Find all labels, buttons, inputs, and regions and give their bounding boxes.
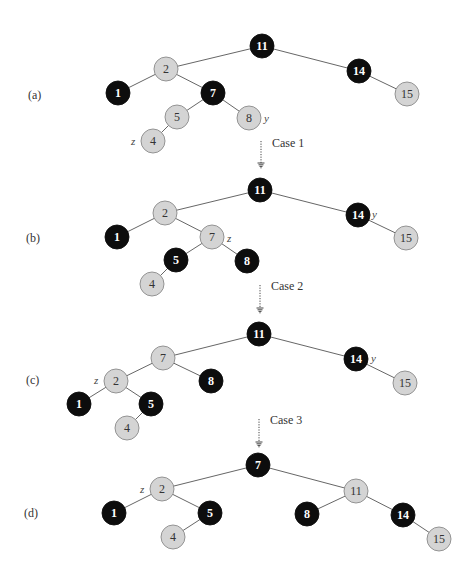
red-black-tree-diagram: 1121417155841121417155841171428151547211… <box>0 0 476 579</box>
transition-arrow: Case 1 <box>258 136 305 168</box>
node-key: 1 <box>114 230 120 244</box>
node-key: 7 <box>209 230 215 244</box>
pointer-label-z: z <box>139 483 145 495</box>
tree-edge <box>165 190 260 213</box>
node-key: 2 <box>162 206 168 220</box>
transition-arrow: Case 2 <box>257 279 304 313</box>
red-node-4: 4 <box>140 272 164 296</box>
node-key: 11 <box>350 484 362 498</box>
arrow-head-icon <box>256 442 263 447</box>
transition-arrow: Case 3 <box>256 413 303 447</box>
tree-edge <box>262 46 359 71</box>
node-key: 1 <box>76 397 82 411</box>
red-node-15: 15 <box>427 527 451 551</box>
nodes-layer: 1121417155841121417155841171428151547211… <box>67 34 451 551</box>
node-key: 5 <box>148 397 154 411</box>
black-node-14: 14 <box>346 203 370 227</box>
labels-layer: (a)yz(b)yz(c)yz(d)z <box>24 88 377 520</box>
arrow-head-icon <box>258 163 265 168</box>
black-node-14: 14 <box>347 59 371 83</box>
black-node-14: 14 <box>344 347 368 371</box>
pointer-label-z: z <box>226 232 232 244</box>
panel-label: (b) <box>26 231 40 245</box>
red-node-4: 4 <box>161 525 185 549</box>
node-key: 4 <box>124 421 130 435</box>
red-node-7: 7 <box>151 346 175 370</box>
node-key: 4 <box>150 134 156 148</box>
black-node-8: 8 <box>235 249 259 273</box>
node-key: 5 <box>173 253 179 267</box>
black-node-1: 1 <box>102 501 126 525</box>
pointer-label-z: z <box>130 135 136 147</box>
red-node-2: 2 <box>153 201 177 225</box>
node-key: 11 <box>253 327 264 341</box>
tree-edge <box>258 465 356 491</box>
node-key: 4 <box>170 530 176 544</box>
pointer-label-y: y <box>371 208 377 220</box>
pointer-label-z: z <box>93 374 99 386</box>
black-node-11: 11 <box>250 34 274 58</box>
black-node-1: 1 <box>105 225 129 249</box>
node-key: 8 <box>208 374 214 388</box>
black-node-11: 11 <box>247 322 271 346</box>
tree-edge <box>166 46 262 69</box>
node-key: 8 <box>246 111 252 125</box>
black-node-14: 14 <box>391 503 415 527</box>
tree-edge <box>162 465 258 489</box>
case-label: Case 2 <box>271 279 303 293</box>
case-label: Case 1 <box>272 136 304 150</box>
node-key: 4 <box>149 277 155 291</box>
node-key: 2 <box>163 62 169 76</box>
red-node-15: 15 <box>394 226 418 250</box>
red-node-2: 2 <box>104 369 128 393</box>
black-node-11: 11 <box>248 178 272 202</box>
red-node-2: 2 <box>150 477 174 501</box>
panel-label: (c) <box>26 373 39 387</box>
black-node-7: 7 <box>246 453 270 477</box>
node-key: 14 <box>350 352 362 366</box>
black-node-5: 5 <box>139 392 163 416</box>
arrow-head-icon <box>257 308 264 313</box>
black-node-7: 7 <box>201 81 225 105</box>
pointer-label-y: y <box>263 112 269 124</box>
node-key: 15 <box>401 87 413 101</box>
node-key: 2 <box>159 482 165 496</box>
node-key: 15 <box>399 376 411 390</box>
red-node-15: 15 <box>395 82 419 106</box>
black-node-8: 8 <box>295 502 319 526</box>
tree-edge <box>259 334 356 359</box>
red-node-2: 2 <box>154 57 178 81</box>
node-key: 14 <box>352 208 364 222</box>
node-key: 7 <box>255 458 261 472</box>
case-label: Case 3 <box>270 413 302 427</box>
node-key: 5 <box>207 506 213 520</box>
black-node-5: 5 <box>164 248 188 272</box>
node-key: 7 <box>210 86 216 100</box>
panel-label: (d) <box>24 506 38 520</box>
tree-edge <box>260 190 358 215</box>
red-node-5: 5 <box>165 105 189 129</box>
node-key: 8 <box>244 254 250 268</box>
node-key: 1 <box>111 506 117 520</box>
node-key: 8 <box>304 507 310 521</box>
black-node-8: 8 <box>199 369 223 393</box>
node-key: 11 <box>256 39 267 53</box>
panel-label: (a) <box>28 88 41 102</box>
node-key: 2 <box>113 374 119 388</box>
node-key: 11 <box>254 183 265 197</box>
pointer-label-y: y <box>370 352 376 364</box>
node-key: 7 <box>160 351 166 365</box>
black-node-1: 1 <box>67 392 91 416</box>
node-key: 1 <box>115 86 121 100</box>
black-node-1: 1 <box>106 81 130 105</box>
red-node-7: 7 <box>200 225 224 249</box>
red-node-4: 4 <box>141 129 165 153</box>
node-key: 15 <box>433 532 445 546</box>
red-node-4: 4 <box>115 416 139 440</box>
node-key: 5 <box>174 110 180 124</box>
node-key: 14 <box>353 64 365 78</box>
red-node-11: 11 <box>344 479 368 503</box>
node-key: 15 <box>400 231 412 245</box>
red-node-15: 15 <box>393 371 417 395</box>
black-node-5: 5 <box>198 501 222 525</box>
